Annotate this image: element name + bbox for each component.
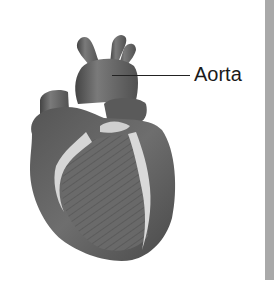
side-bar [265,0,274,280]
aorta-label: Aorta [194,62,242,86]
aorta-leader-line [112,75,190,76]
aorta [75,35,138,104]
diagram: Aorta [0,0,274,285]
heart-illustration [0,0,265,285]
